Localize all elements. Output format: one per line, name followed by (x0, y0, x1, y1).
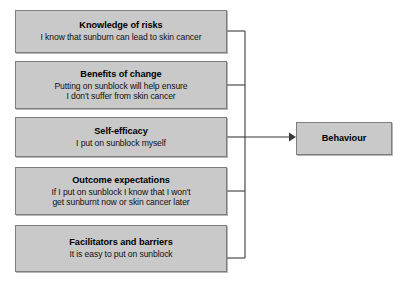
determinant-title: Knowledge of risks (79, 20, 162, 31)
determinant-title: Facilitators and barriers (69, 237, 172, 248)
determinant-box-benefits-of-change[interactable]: Benefits of change Putting on sunblock w… (15, 61, 227, 109)
arrowhead-icon (289, 133, 296, 142)
determinant-box-facilitators-and-barriers[interactable]: Facilitators and barriers It is easy to … (15, 225, 227, 272)
determinant-description: I know that sunburn can lead to skin can… (41, 32, 202, 42)
determinant-box-outcome-expectations[interactable]: Outcome expectations If I put on sunbloc… (15, 167, 227, 215)
determinant-title: Benefits of change (80, 69, 161, 80)
determinant-title: Self-efficacy (94, 126, 147, 137)
determinant-box-self-efficacy[interactable]: Self-efficacy I put on sunblock myself (15, 117, 227, 157)
determinant-description: I put on sunblock myself (76, 138, 166, 148)
diagram-canvas: Knowledge of risks I know that sunburn c… (0, 0, 402, 283)
determinant-box-knowledge-of-risks[interactable]: Knowledge of risks I know that sunburn c… (15, 10, 227, 53)
outcome-box-behaviour[interactable]: Behaviour (296, 122, 392, 155)
determinant-title: Outcome expectations (72, 175, 170, 186)
determinant-description: If I put on sunblock I know that I won't… (51, 187, 190, 208)
determinant-description: It is easy to put on sunblock (69, 249, 172, 259)
determinant-description: Putting on sunblock will help ensure I d… (54, 81, 187, 102)
outcome-title: Behaviour (322, 133, 366, 144)
